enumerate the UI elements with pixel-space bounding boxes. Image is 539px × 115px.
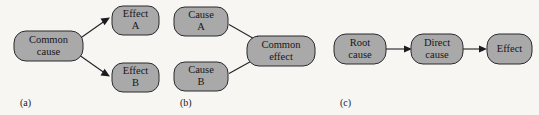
panel-b: Cause A Cause B Common effect (b) (174, 7, 315, 109)
node-direct-cause-line2: cause (425, 49, 449, 60)
node-cause-a-line1: Cause (188, 9, 214, 20)
node-effect-a-line2: A (132, 20, 140, 31)
node-cause-a[interactable]: Cause A (174, 7, 228, 36)
node-common-cause-line1: Common (29, 34, 69, 45)
node-cause-b[interactable]: Cause B (174, 62, 228, 91)
edge-direct-cause-to-effect (462, 45, 487, 52)
edge-common-cause-to-effect-b (77, 54, 110, 77)
node-common-effect-line1: Common (261, 39, 301, 50)
node-effect-b[interactable]: Effect B (112, 63, 159, 92)
node-cause-b-line2: B (197, 76, 204, 87)
causal-diagram-figure: Common cause Effect A Effect B (a) (0, 0, 539, 115)
panel-c: Root cause Direct cause Effect (c) (334, 34, 532, 109)
node-direct-cause[interactable]: Direct cause (411, 34, 463, 64)
node-effect[interactable]: Effect (487, 34, 532, 64)
panel-caption-b: (b) (180, 97, 192, 109)
node-root-cause-line1: Root (350, 37, 371, 48)
panel-caption-a: (a) (20, 97, 31, 109)
node-effect-b-line1: Effect (123, 65, 149, 76)
node-common-effect[interactable]: Common effect (247, 36, 315, 66)
panel-caption-c: (c) (340, 97, 351, 109)
node-root-cause-line2: cause (348, 49, 372, 60)
node-root-cause[interactable]: Root cause (334, 34, 386, 64)
node-effect-a[interactable]: Effect A (112, 6, 159, 35)
figure-canvas: Common cause Effect A Effect B (a) (0, 0, 539, 115)
panel-a: Common cause Effect A Effect B (a) (14, 6, 159, 109)
node-cause-a-line2: A (197, 21, 205, 32)
node-effect-a-line1: Effect (123, 8, 149, 19)
node-effect-line1: Effect (497, 43, 523, 54)
node-direct-cause-line1: Direct (424, 37, 450, 48)
edge-root-cause-to-direct-cause (386, 45, 412, 52)
node-common-effect-line2: effect (269, 51, 293, 62)
node-cause-b-line1: Cause (188, 64, 214, 75)
node-effect-b-line2: B (132, 77, 139, 88)
node-common-cause-line2: cause (37, 46, 61, 57)
node-common-cause[interactable]: Common cause (14, 31, 83, 61)
